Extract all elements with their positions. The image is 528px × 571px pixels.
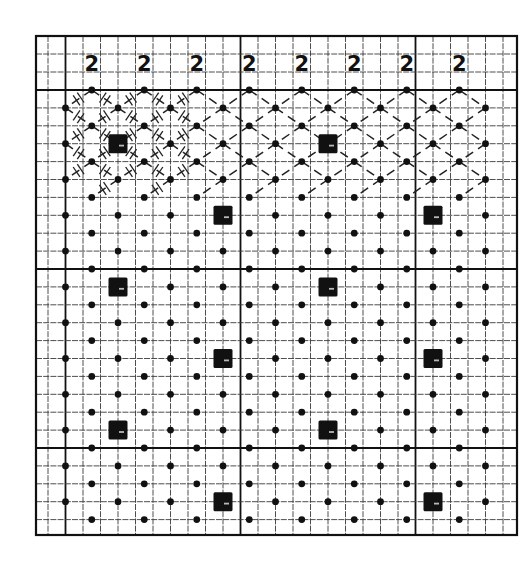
lattice-dot <box>272 427 279 434</box>
lattice-dot <box>456 516 463 523</box>
lattice-dot <box>430 176 437 183</box>
lattice-dot <box>220 427 227 434</box>
lattice-dot <box>88 301 95 308</box>
square-marker-highlight <box>329 145 334 147</box>
lattice-dot <box>193 480 200 487</box>
header-label: 2 <box>84 52 99 76</box>
square-marker <box>424 349 443 368</box>
lattice-dot <box>403 301 410 308</box>
lattice-dot <box>220 284 227 291</box>
square-marker-highlight <box>434 503 439 505</box>
lattice-dot <box>403 230 410 237</box>
lattice-dot <box>456 87 463 94</box>
lattice-dot <box>62 427 69 434</box>
lattice-dot <box>377 355 384 362</box>
lattice-dot <box>141 230 148 237</box>
header-label: 2 <box>137 52 152 76</box>
lattice-dot <box>220 105 227 112</box>
lattice-dot <box>193 337 200 344</box>
lattice-dot <box>298 87 305 94</box>
square-marker <box>319 134 338 153</box>
lattice-dot <box>377 319 384 326</box>
lattice-dot <box>88 337 95 344</box>
header-label: 2 <box>347 52 362 76</box>
lattice-dot <box>482 140 489 147</box>
square-marker-highlight <box>224 360 229 362</box>
lattice-dot <box>482 284 489 291</box>
lattice-dot <box>403 122 410 129</box>
lattice-dot <box>351 194 358 201</box>
lattice-dot <box>167 355 174 362</box>
lattice-dot <box>167 176 174 183</box>
lattice-dot <box>325 355 332 362</box>
lattice-dot <box>298 230 305 237</box>
lattice-dot <box>88 266 95 273</box>
lattice-dot <box>377 105 384 112</box>
lattice-dot <box>62 105 69 112</box>
lattice-dot <box>377 391 384 398</box>
lattice-dot <box>403 409 410 416</box>
lattice-dot <box>377 140 384 147</box>
lattice-dot <box>298 480 305 487</box>
header-label: 2 <box>399 52 414 76</box>
lattice-dot <box>167 463 174 470</box>
lattice-dot <box>141 266 148 273</box>
lattice-dot <box>272 140 279 147</box>
lattice-dot <box>403 337 410 344</box>
lattice-dot <box>193 373 200 380</box>
paper-background <box>0 0 528 571</box>
lattice-dot <box>62 498 69 505</box>
lattice-dot <box>141 409 148 416</box>
lattice-dot <box>482 463 489 470</box>
lattice-dot <box>403 194 410 201</box>
square-marker-highlight <box>224 216 229 218</box>
lattice-dot <box>298 266 305 273</box>
square-marker <box>214 206 233 225</box>
lattice-dot <box>193 409 200 416</box>
lattice-dot <box>482 319 489 326</box>
lattice-dot <box>88 122 95 129</box>
lattice-dot <box>482 427 489 434</box>
lattice-dot <box>298 445 305 452</box>
square-marker-highlight <box>434 216 439 218</box>
lattice-dot <box>62 463 69 470</box>
lattice-dot <box>456 301 463 308</box>
lattice-dot <box>88 194 95 201</box>
lattice-dot <box>246 445 253 452</box>
lattice-dot <box>351 409 358 416</box>
lattice-dot <box>246 158 253 165</box>
lattice-dot <box>167 498 174 505</box>
lattice-dot <box>482 105 489 112</box>
lattice-dot <box>430 140 437 147</box>
lattice-dot <box>272 391 279 398</box>
lattice-dot <box>220 463 227 470</box>
lattice-dot <box>167 248 174 255</box>
lattice-dot <box>298 158 305 165</box>
lattice-dot <box>325 105 332 112</box>
lattice-dot <box>193 122 200 129</box>
lattice-dot <box>298 516 305 523</box>
lattice-dot <box>272 248 279 255</box>
header-label: 2 <box>242 52 257 76</box>
lattice-dot <box>246 230 253 237</box>
lattice-dot <box>193 516 200 523</box>
lattice-dot <box>272 105 279 112</box>
lattice-dot <box>167 427 174 434</box>
lattice-dot <box>403 445 410 452</box>
lattice-dot <box>377 284 384 291</box>
square-marker-highlight <box>434 360 439 362</box>
square-marker <box>109 277 128 296</box>
lattice-dot <box>456 409 463 416</box>
lattice-dot <box>351 480 358 487</box>
lattice-dot <box>272 176 279 183</box>
lattice-dot <box>456 445 463 452</box>
square-marker-highlight <box>329 431 334 433</box>
lattice-dot <box>220 176 227 183</box>
lattice-dot <box>88 480 95 487</box>
lattice-dot <box>403 87 410 94</box>
lattice-dot <box>141 445 148 452</box>
square-marker-highlight <box>224 503 229 505</box>
lattice-dot <box>430 105 437 112</box>
lattice-dot <box>430 319 437 326</box>
lattice-dot <box>351 230 358 237</box>
